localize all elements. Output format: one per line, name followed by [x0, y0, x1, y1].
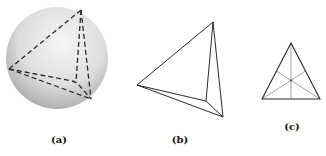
- panel-a-label: (a): [51, 134, 67, 145]
- panel-c-label: (c): [284, 121, 300, 132]
- panel-c-triangle-medians: [262, 43, 320, 99]
- medians: [262, 43, 320, 99]
- panel-b-label: (b): [172, 134, 188, 145]
- centroid-point: [290, 80, 292, 82]
- figure-canvas: [0, 0, 326, 156]
- panel-a-sphere-tetrahedron: [6, 7, 108, 109]
- sphere: [6, 7, 108, 109]
- panel-b-tetrahedron: [137, 22, 223, 117]
